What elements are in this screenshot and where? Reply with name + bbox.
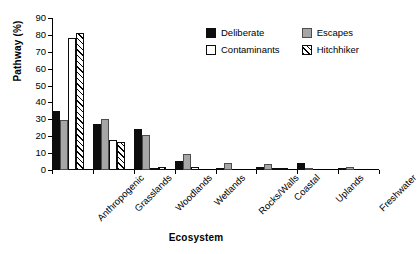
- bar: [60, 120, 68, 170]
- bar: [338, 168, 346, 170]
- y-tick-label: 80: [35, 30, 46, 40]
- y-tick-label: 90: [35, 13, 46, 23]
- bar-group: [52, 18, 93, 170]
- bar: [117, 142, 125, 170]
- bar: [183, 154, 191, 170]
- legend-label: Deliberate: [221, 27, 264, 38]
- bar: [93, 124, 101, 170]
- x-axis-labels: AnthropogenicGrasslandsWoodlandsWetlands…: [52, 172, 379, 228]
- bar: [216, 168, 224, 170]
- x-tick-label: Wetlands: [212, 172, 248, 208]
- bar: [346, 167, 354, 170]
- legend-swatch-icon: [206, 45, 216, 55]
- y-tick-label: 30: [35, 115, 46, 125]
- y-tick-label: 10: [35, 148, 46, 158]
- legend-swatch-icon: [302, 28, 312, 38]
- legend-label: Escapes: [317, 27, 353, 38]
- legend-swatch-icon: [206, 28, 216, 38]
- bar: [68, 38, 76, 170]
- bar: [264, 164, 272, 170]
- legend-item: Contaminants: [206, 44, 292, 55]
- x-tick: [379, 170, 380, 174]
- bar: [256, 167, 264, 170]
- y-tick-label: 50: [35, 81, 46, 91]
- legend-item: Escapes: [302, 27, 371, 38]
- bar: [158, 167, 166, 170]
- bar: [52, 111, 60, 170]
- bar: [134, 129, 142, 170]
- x-tick-label: Freshwater: [377, 172, 418, 213]
- y-tick-label: 0: [41, 165, 46, 175]
- bar: [101, 119, 109, 171]
- y-axis-title: Pathway (%): [12, 0, 26, 106]
- bar: [224, 163, 232, 170]
- bar: [272, 168, 280, 170]
- bar: [297, 163, 305, 170]
- x-tick-label: Uplands: [333, 172, 365, 204]
- bar-group: [134, 18, 175, 170]
- x-axis-title: Ecosystem: [0, 232, 392, 243]
- y-tick-label: 40: [35, 98, 46, 108]
- bar: [280, 168, 288, 170]
- bar: [150, 168, 158, 170]
- x-tick-label: Woodlands: [173, 172, 214, 213]
- y-tick-label: 20: [35, 131, 46, 141]
- bar: [305, 168, 313, 170]
- bar: [109, 140, 117, 170]
- legend-swatch-icon: [302, 45, 312, 55]
- legend-item: Hitchhiker: [302, 44, 371, 55]
- y-tick-label: 60: [35, 64, 46, 74]
- bar: [142, 135, 150, 170]
- legend-label: Hitchhiker: [317, 44, 359, 55]
- bar: [76, 33, 84, 170]
- bar: [191, 167, 199, 170]
- chart-legend: DeliberateEscapesContaminantsHitchhiker: [206, 27, 371, 55]
- y-tick-label: 70: [35, 47, 46, 57]
- bar-group: [93, 18, 134, 170]
- legend-item: Deliberate: [206, 27, 292, 38]
- bar: [175, 161, 183, 170]
- legend-label: Contaminants: [221, 44, 280, 55]
